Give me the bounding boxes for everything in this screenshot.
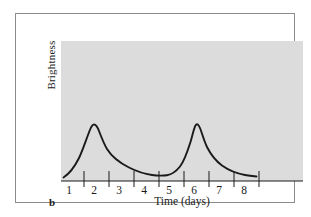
x-axis-title: Time (days) <box>61 195 303 207</box>
plot-area <box>61 41 303 181</box>
figure-root: 1 2 3 4 5 6 7 8 Brightness Time (days) b <box>0 0 311 217</box>
panel-label: b <box>49 196 55 208</box>
y-axis-title: Brightness <box>44 13 58 117</box>
figure-border-frame: 1 2 3 4 5 6 7 8 Brightness Time (days) b <box>15 13 295 203</box>
